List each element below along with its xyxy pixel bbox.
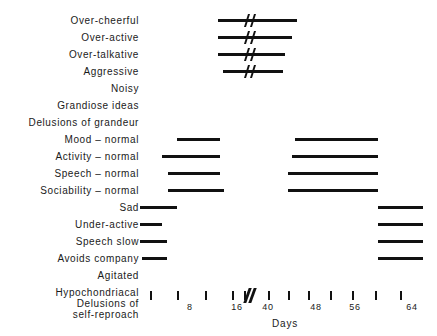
symptom-bar bbox=[288, 189, 378, 192]
symptom-label: Noisy bbox=[111, 83, 139, 94]
symptom-label: Sad bbox=[119, 202, 139, 213]
axis-tick-label: 64 bbox=[400, 302, 424, 312]
axis-tick-label: 40 bbox=[256, 302, 280, 312]
symptom-bar bbox=[142, 257, 167, 260]
symptom-label: Mood – normal bbox=[65, 134, 140, 145]
symptom-label: Aggressive bbox=[84, 66, 139, 77]
axis-tick bbox=[150, 291, 152, 300]
axis-tick-label: 48 bbox=[304, 302, 328, 312]
axis-tick bbox=[330, 291, 332, 300]
symptom-label: Sociability – normal bbox=[40, 185, 139, 196]
axis-title-days: Days bbox=[255, 318, 315, 329]
symptom-label: Under-active bbox=[75, 219, 139, 230]
axis-tick bbox=[400, 291, 402, 300]
axis-tick-label: 16 bbox=[225, 302, 249, 312]
symptom-bar bbox=[295, 138, 378, 141]
symptom-label: Over-talkative bbox=[69, 49, 139, 60]
symptom-bar bbox=[218, 36, 292, 39]
axis-tick bbox=[205, 291, 207, 300]
symptom-bar bbox=[378, 206, 423, 209]
symptom-bar bbox=[140, 223, 162, 226]
symptom-label: Over-active bbox=[81, 32, 139, 43]
symptom-label: Hypochondriacal bbox=[56, 287, 140, 298]
axis-tick bbox=[288, 291, 290, 300]
symptom-label: Delusions of self-reproach bbox=[73, 298, 139, 320]
axis-tick bbox=[232, 291, 234, 300]
symptom-bar bbox=[378, 257, 423, 260]
symptom-timeline-chart: Over-cheerfulOver-activeOver-talkativeAg… bbox=[0, 0, 437, 336]
axis-tick bbox=[352, 291, 354, 300]
symptom-bar bbox=[177, 138, 220, 141]
symptom-bar bbox=[162, 155, 220, 158]
symptom-label: Agitated bbox=[98, 270, 140, 281]
symptom-label: Activity – normal bbox=[55, 151, 139, 162]
symptom-label: Over-cheerful bbox=[71, 15, 139, 26]
symptom-bar bbox=[140, 240, 167, 243]
symptom-bar bbox=[168, 189, 224, 192]
symptom-bar bbox=[168, 172, 220, 175]
symptom-label: Delusions of grandeur bbox=[29, 117, 139, 128]
symptom-bar bbox=[292, 155, 378, 158]
axis-tick bbox=[308, 291, 310, 300]
symptom-bar bbox=[140, 206, 177, 209]
symptom-bar bbox=[218, 19, 297, 22]
symptom-bar bbox=[288, 172, 378, 175]
symptom-label: Grandiose ideas bbox=[57, 100, 139, 111]
axis-tick bbox=[177, 291, 179, 300]
axis-tick bbox=[268, 291, 270, 300]
symptom-label: Avoids company bbox=[57, 253, 139, 264]
axis-tick-label: 8 bbox=[178, 302, 202, 312]
symptom-bar bbox=[378, 223, 423, 226]
axis-tick bbox=[375, 291, 377, 300]
symptom-bar bbox=[378, 240, 423, 243]
symptom-label: Speech – normal bbox=[54, 168, 139, 179]
symptom-label: Speech slow bbox=[76, 236, 139, 247]
axis-tick-label: 56 bbox=[343, 302, 367, 312]
